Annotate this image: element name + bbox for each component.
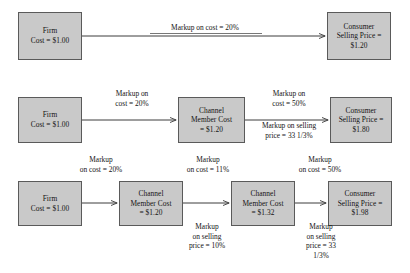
box-line: = $1.20 <box>200 125 223 135</box>
label-line: on selling <box>178 232 236 242</box>
label-line: price = 33 <box>292 241 350 251</box>
box-line: $1.98 <box>352 208 369 218</box>
row2-markup-on-cost-label-1: Markup on cost = 20% <box>90 89 174 108</box>
box-line: Cost = $1.00 <box>31 204 70 214</box>
box-line: Cost = $1.00 <box>31 120 70 130</box>
box-line: Consumer <box>345 189 376 199</box>
label-line: Markup on cost = 20% <box>155 23 255 33</box>
box-line: Consumer <box>346 106 377 116</box>
box-line: Member Cost <box>243 199 284 209</box>
row3-markup-on-cost-label-1: Markup on cost = 20% <box>67 155 135 174</box>
box-line: Channel <box>139 189 164 199</box>
row1-firm-box: Firm Cost = $1.00 <box>18 12 82 60</box>
box-line: Channel <box>251 189 276 199</box>
box-line: Cost = $1.00 <box>31 36 70 46</box>
row3-markup-on-selling-price-label-2: Markup on selling price = 33 1/3% <box>292 222 350 260</box>
row3-markup-on-cost-label-2: Markup on cost = 11% <box>174 155 242 174</box>
label-line: on cost = 20% <box>67 165 135 175</box>
box-line: Selling Price = <box>337 31 382 41</box>
box-line: $1.20 <box>351 41 368 51</box>
label-line: Markup <box>178 222 236 232</box>
label-line: cost = 20% <box>90 99 174 109</box>
label-line: Markup on <box>249 89 329 99</box>
row3-firm-box: Firm Cost = $1.00 <box>18 181 82 226</box>
box-line: Selling Price = <box>339 115 384 125</box>
label-line: Markup <box>286 155 354 165</box>
label-line: on cost = 50% <box>286 165 354 175</box>
row2-markup-on-cost-label-2: Markup on cost = 50% <box>249 89 329 108</box>
row3-consumer-box: Consumer Selling Price = $1.98 <box>328 181 392 226</box>
box-line: Channel <box>199 106 224 116</box>
label-line: Markup on selling <box>241 121 337 131</box>
row3-markup-on-selling-price-label-1: Markup on selling price = 10% <box>178 222 236 251</box>
label-line: on selling <box>292 232 350 242</box>
box-line: Consumer <box>344 22 375 32</box>
row1-markup-on-cost-label: Markup on cost = 20% <box>155 23 255 33</box>
label-line: Markup <box>292 222 350 232</box>
box-line: Member Cost <box>191 115 232 125</box>
label-line: price = 10% <box>178 241 236 251</box>
box-line: $1.80 <box>353 125 370 135</box>
row3-channel-member-box-2: Channel Member Cost = $1.32 <box>231 181 295 226</box>
row2-channel-member-box: Channel Member Cost = $1.20 <box>178 97 245 143</box>
box-line: = $1.32 <box>252 208 275 218</box>
box-line: Selling Price = <box>338 199 383 209</box>
box-line: Firm <box>43 194 58 204</box>
row1-consumer-box: Consumer Selling Price = $1.20 <box>327 12 391 60</box>
row2-firm-box: Firm Cost = $1.00 <box>18 97 82 143</box>
label-line: on cost = 11% <box>174 165 242 175</box>
row3-channel-member-box-1: Channel Member Cost = $1.20 <box>119 181 183 226</box>
row2-markup-on-selling-price-label: Markup on selling price = 33 1/3% <box>241 121 337 140</box>
label-line: cost = 50% <box>249 99 329 109</box>
box-line: Member Cost <box>131 199 172 209</box>
label-line: price = 33 1/3% <box>241 131 337 141</box>
label-line: Markup on <box>90 89 174 99</box>
markup-chain-diagram: Firm Cost = $1.00 Consumer Selling Price… <box>0 0 410 273</box>
row3-markup-on-cost-label-3: Markup on cost = 50% <box>286 155 354 174</box>
box-line: = $1.20 <box>140 208 163 218</box>
label-line: Markup <box>67 155 135 165</box>
label-line: 1/3% <box>292 251 350 261</box>
box-line: Firm <box>43 26 58 36</box>
row2-consumer-box: Consumer Selling Price = $1.80 <box>330 97 392 143</box>
box-line: Firm <box>43 110 58 120</box>
label-line: Markup <box>174 155 242 165</box>
